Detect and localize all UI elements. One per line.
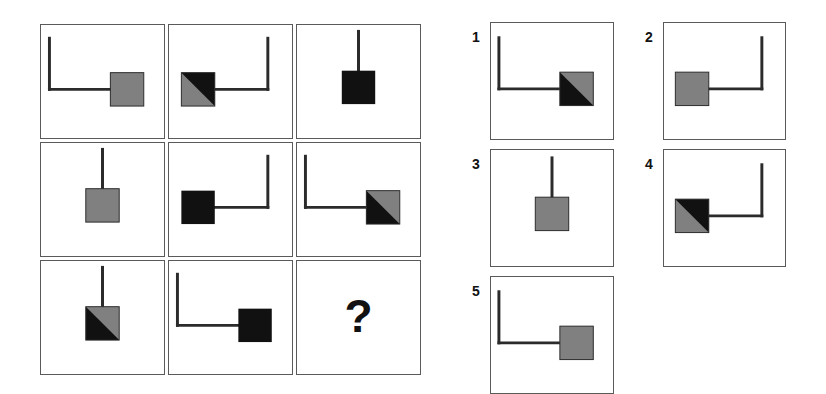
option-2[interactable] bbox=[663, 22, 786, 140]
figure-matrix-cell-3-1 bbox=[41, 261, 164, 374]
matrix-cell-3-3: ? bbox=[296, 260, 421, 375]
question-mark: ? bbox=[297, 261, 420, 374]
figure-matrix-cell-1-3 bbox=[297, 25, 420, 138]
option-3[interactable] bbox=[490, 149, 614, 267]
figure-option-1 bbox=[491, 23, 613, 139]
option-4[interactable] bbox=[663, 149, 786, 267]
matrix-cell-2-3 bbox=[296, 142, 421, 257]
option-1[interactable] bbox=[490, 22, 614, 140]
figure-option-2 bbox=[664, 23, 785, 139]
option-5[interactable] bbox=[490, 276, 614, 394]
option-1-number: 1 bbox=[472, 30, 480, 44]
figure-matrix-cell-1-1 bbox=[41, 25, 164, 138]
figure-matrix-cell-3-2 bbox=[169, 261, 292, 374]
option-3-number: 3 bbox=[472, 157, 480, 171]
figure-matrix-cell-2-3 bbox=[297, 143, 420, 256]
matrix-cell-1-1 bbox=[40, 24, 165, 139]
figure-option-5 bbox=[491, 277, 613, 393]
matrix-cell-3-1 bbox=[40, 260, 165, 375]
option-4-number: 4 bbox=[645, 157, 653, 171]
figure-matrix-cell-1-2 bbox=[169, 25, 292, 138]
figure-option-4 bbox=[664, 150, 785, 266]
matrix-cell-1-3 bbox=[296, 24, 421, 139]
matrix-cell-2-1 bbox=[40, 142, 165, 257]
figure-matrix-cell-2-2 bbox=[169, 143, 292, 256]
figure-option-3 bbox=[491, 150, 613, 266]
matrix-cell-3-2 bbox=[168, 260, 293, 375]
option-5-number: 5 bbox=[472, 284, 480, 298]
figure-matrix-cell-2-1 bbox=[41, 143, 164, 256]
matrix-cell-1-2 bbox=[168, 24, 293, 139]
matrix-cell-2-2 bbox=[168, 142, 293, 257]
option-2-number: 2 bbox=[645, 30, 653, 44]
